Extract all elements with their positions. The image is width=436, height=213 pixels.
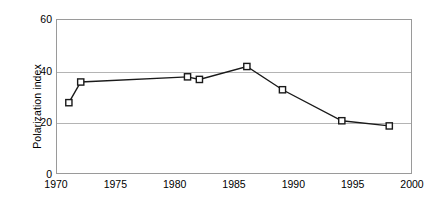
data-point-1986 xyxy=(244,63,250,69)
data-point-1972 xyxy=(78,79,84,85)
data-point-1971 xyxy=(66,100,72,106)
data-point-1982 xyxy=(196,76,202,82)
x-tick-label-1975: 1975 xyxy=(95,179,135,190)
plot-area xyxy=(56,19,412,174)
data-point-1989 xyxy=(279,87,285,93)
data-point-1994 xyxy=(339,118,345,124)
y-tick-label-20: 20 xyxy=(26,117,52,128)
series-polarization-index xyxy=(57,20,413,175)
x-tick-label-1985: 1985 xyxy=(214,179,254,190)
x-tick-label-1970: 1970 xyxy=(36,179,76,190)
x-tick-label-2000: 2000 xyxy=(392,179,432,190)
data-point-1998 xyxy=(386,123,392,129)
x-tick-label-1980: 1980 xyxy=(155,179,195,190)
x-tick-label-1995: 1995 xyxy=(333,179,373,190)
y-tick-label-40: 40 xyxy=(26,65,52,76)
x-tick-label-1990: 1990 xyxy=(273,179,313,190)
line-chart: Polarization index 0204060 1970197519801… xyxy=(0,0,436,213)
data-point-1981 xyxy=(184,74,190,80)
y-tick-label-60: 60 xyxy=(26,14,52,25)
